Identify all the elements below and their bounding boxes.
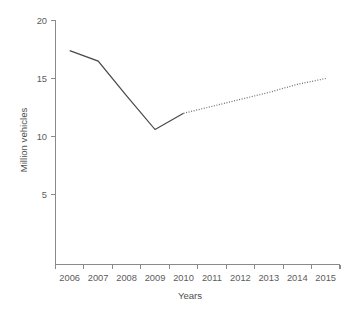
chart-figure: 20 15 10 5 2006 2007 2008 2009 2010 2 — [0, 0, 355, 310]
x-tick-label-2011: 2011 — [202, 273, 222, 283]
x-tick-label-2010: 2010 — [173, 273, 194, 283]
x-tick-label-2012: 2012 — [230, 273, 251, 283]
y-tick-marks — [51, 21, 56, 195]
series-solid-actual — [70, 51, 184, 130]
y-tick-label-5: 5 — [42, 190, 47, 200]
x-tick-label-2006: 2006 — [59, 273, 80, 283]
series-dotted-forecast — [184, 79, 326, 114]
x-axis-title: Years — [178, 290, 202, 301]
x-tick-label-2015: 2015 — [315, 273, 336, 283]
x-tick-marks — [56, 265, 341, 270]
x-tick-label-2014: 2014 — [287, 273, 308, 283]
y-tick-label-15: 15 — [37, 74, 47, 84]
y-axis-title: Million vehicles — [18, 108, 29, 173]
x-tick-label-2008: 2008 — [116, 273, 137, 283]
y-tick-label-20: 20 — [37, 16, 47, 26]
y-tick-label-10: 10 — [37, 132, 47, 142]
x-tick-label-2007: 2007 — [88, 273, 109, 283]
y-tick-labels: 20 15 10 5 — [37, 16, 47, 200]
x-tick-label-2009: 2009 — [145, 273, 166, 283]
line-chart-plot: 20 15 10 5 2006 2007 2008 2009 2010 2 — [0, 0, 355, 310]
x-tick-labels: 2006 2007 2008 2009 2010 2011 2012 2013 … — [59, 273, 336, 283]
x-tick-label-2013: 2013 — [258, 273, 279, 283]
